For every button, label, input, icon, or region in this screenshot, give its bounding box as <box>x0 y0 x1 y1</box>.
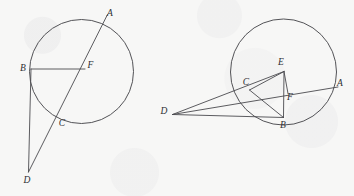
right-segment-e-c <box>250 72 285 91</box>
right-label-b: B <box>280 120 286 130</box>
right-label-e: E <box>277 57 284 67</box>
right-segment-d-e <box>173 72 285 115</box>
figure-right: E A C F B D <box>0 0 354 196</box>
right-label-a: A <box>336 78 343 88</box>
diagram-page: A B F C D E A C F B D <box>0 0 354 196</box>
right-label-f: F <box>286 92 293 102</box>
right-segment-d-b <box>173 115 284 118</box>
right-segment-d-a <box>173 87 339 115</box>
right-segment-c-b <box>250 90 284 118</box>
right-label-d: D <box>160 106 168 116</box>
right-segment-e-f <box>284 72 288 94</box>
right-label-c: C <box>243 77 250 87</box>
right-segment-e-b <box>284 72 285 118</box>
